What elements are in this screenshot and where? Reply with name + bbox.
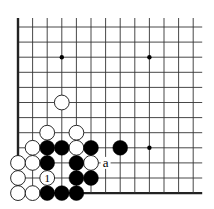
white-stone [11,156,26,171]
white-stone [25,156,40,171]
black-stone [40,140,55,155]
point-label: a [103,155,109,170]
black-stone [84,140,99,155]
white-stone [69,140,84,155]
black-stone [113,140,128,155]
black-stone [40,186,55,201]
black-stone [69,156,84,171]
black-stone [54,186,69,201]
white-stone [25,140,40,155]
labels-layer: a [101,155,111,170]
move-number-label: 1 [44,172,50,184]
white-stone [54,95,69,110]
white-stone [25,186,40,201]
star-point [147,146,151,150]
white-stone [11,171,26,186]
star-point [60,55,64,59]
go-board-diagram: 1 a [0,0,214,209]
black-stone [40,156,55,171]
black-stone [69,171,84,186]
white-stone [40,125,55,140]
white-stone [69,125,84,140]
black-stone [54,140,69,155]
star-point [147,55,151,59]
white-stone [11,186,26,201]
white-stone [84,156,99,171]
black-stone [84,171,99,186]
black-stone [69,186,84,201]
